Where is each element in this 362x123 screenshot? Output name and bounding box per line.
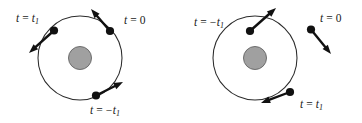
central-body-icon <box>244 47 267 70</box>
central-body-icon <box>69 47 92 70</box>
label-t-equals-0: t=0 <box>124 14 146 26</box>
label-t-equals-0: t=0 <box>320 12 342 24</box>
prograde-orbit-panel: t=t1 t=0 t=−t1 <box>16 9 146 117</box>
figure-canvas: t=t1 t=0 t=−t1 <box>0 0 362 123</box>
label-t-equals-minus-t1: t=−t1 <box>194 16 224 30</box>
label-t-equals-t1: t=t1 <box>300 98 323 112</box>
orbital-diagram-figure: t=t1 t=0 t=−t1 <box>0 0 362 123</box>
orbit-position-marker <box>286 88 294 96</box>
orbit-position-marker <box>106 27 114 35</box>
label-t-equals-minus-t1: t=−t1 <box>90 104 120 118</box>
marker-t-equals-minus-t1 <box>246 8 276 35</box>
marker-t-equals-0 <box>307 25 331 54</box>
marker-t-equals-t1 <box>261 88 294 103</box>
velocity-arrowhead-icon <box>113 82 123 89</box>
retrograde-orbit-panel: t=−t1 t=0 t=t1 <box>194 8 342 111</box>
orbit-position-marker <box>307 25 315 33</box>
velocity-vector-line <box>250 13 271 31</box>
orbit-position-marker <box>92 91 100 99</box>
marker-t-equals-t1 <box>29 26 58 53</box>
marker-t-equals-0 <box>91 9 114 35</box>
orbit-position-marker <box>50 26 58 34</box>
marker-t-equals-minus-t1 <box>92 82 123 100</box>
orbit-position-marker <box>246 27 254 35</box>
label-t-equals-t1: t=t1 <box>16 12 39 26</box>
